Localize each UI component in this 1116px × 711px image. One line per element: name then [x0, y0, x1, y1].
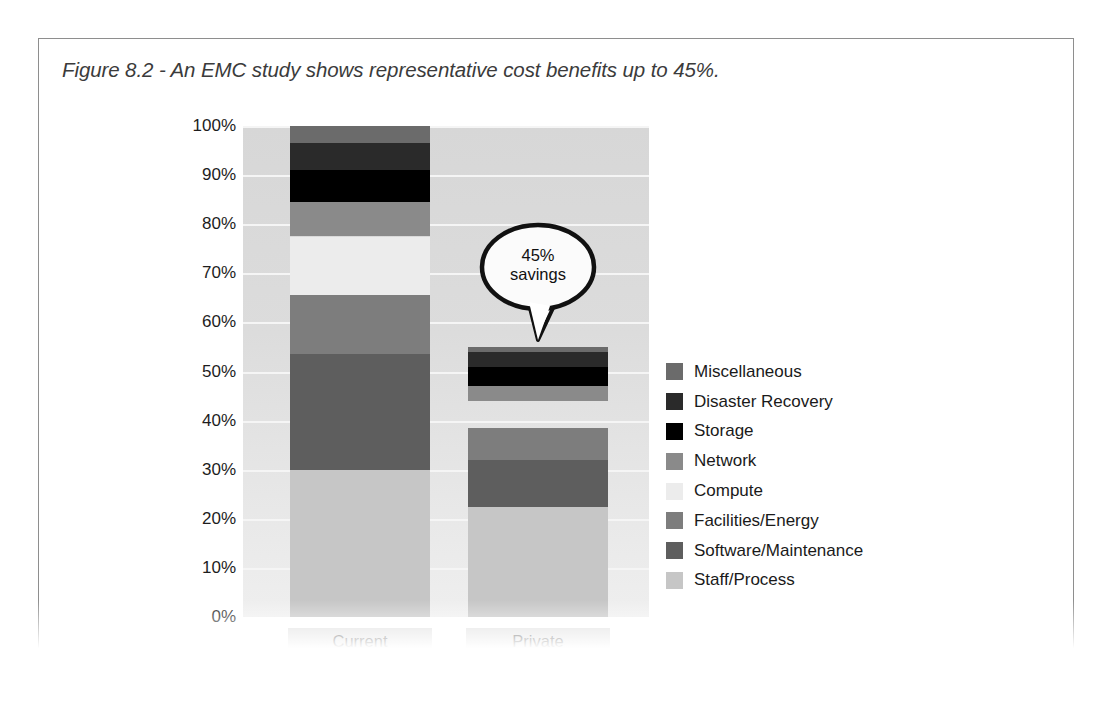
- y-tick-label: 90%: [166, 165, 236, 185]
- bar-segment[interactable]: [290, 143, 430, 170]
- x-label-private-text: Private: [512, 632, 563, 651]
- legend-label: Software/Maintenance: [694, 541, 863, 561]
- callout-bubble-icon: [476, 222, 616, 358]
- y-tick-label: 20%: [166, 509, 236, 529]
- callout-line-1: 45%: [476, 246, 600, 265]
- y-axis: 0%10%20%30%40%50%60%70%80%90%100%: [164, 126, 236, 617]
- legend-label: Facilities/Energy: [694, 511, 819, 531]
- legend-label: Network: [694, 451, 756, 471]
- callout-text: 45% savings: [476, 246, 600, 284]
- legend-item[interactable]: Staff/Process: [666, 566, 996, 596]
- y-tick-label: 70%: [166, 263, 236, 283]
- bar-segment[interactable]: [468, 460, 608, 507]
- legend-swatch-icon: [666, 512, 683, 529]
- figure-container: Figure 8.2 - An EMC study shows represen…: [0, 0, 1116, 711]
- legend-swatch-icon: [666, 542, 683, 559]
- y-tick-label: 10%: [166, 558, 236, 578]
- legend-swatch-icon: [666, 483, 683, 500]
- legend-swatch-icon: [666, 572, 683, 589]
- legend-swatch-icon: [666, 423, 683, 440]
- bar-segment[interactable]: [468, 428, 608, 460]
- legend-item[interactable]: Software/Maintenance: [666, 536, 996, 566]
- legend-label: Staff/Process: [694, 570, 795, 590]
- bar-segment[interactable]: [468, 507, 608, 617]
- legend-swatch-icon: [666, 453, 683, 470]
- callout-line-2: savings: [476, 265, 600, 284]
- legend-item[interactable]: Storage: [666, 417, 996, 447]
- legend-label: Miscellaneous: [694, 362, 802, 382]
- legend-swatch-icon: [666, 393, 683, 410]
- legend-swatch-icon: [666, 363, 683, 380]
- plot-area: [243, 126, 649, 617]
- legend-label: Compute: [694, 481, 763, 501]
- x-label-private: Private: [466, 628, 610, 654]
- bar-segment[interactable]: [290, 295, 430, 354]
- legend-label: Disaster Recovery: [694, 392, 833, 412]
- y-tick-label: 50%: [166, 362, 236, 382]
- bar-segment[interactable]: [468, 367, 608, 387]
- y-tick-label: 60%: [166, 312, 236, 332]
- y-tick-label: 0%: [166, 607, 236, 627]
- legend-item[interactable]: Miscellaneous: [666, 357, 996, 387]
- x-label-current: Current: [288, 628, 432, 654]
- legend-item[interactable]: Disaster Recovery: [666, 387, 996, 417]
- legend-label: Storage: [694, 421, 754, 441]
- bar-segment[interactable]: [290, 470, 430, 617]
- bar-segment[interactable]: [468, 386, 608, 401]
- bar-segment[interactable]: [290, 354, 430, 469]
- legend-item[interactable]: Compute: [666, 476, 996, 506]
- bar-segment[interactable]: [290, 170, 430, 202]
- y-tick-label: 80%: [166, 214, 236, 234]
- bar-segment[interactable]: [290, 202, 430, 236]
- legend: MiscellaneousDisaster RecoveryStorageNet…: [666, 357, 996, 595]
- bar-segment[interactable]: [290, 237, 430, 296]
- y-tick-label: 30%: [166, 460, 236, 480]
- y-tick-label: 100%: [166, 116, 236, 136]
- figure-caption: Figure 8.2 - An EMC study shows represen…: [62, 58, 1022, 82]
- legend-item[interactable]: Facilities/Energy: [666, 506, 996, 536]
- x-label-current-text: Current: [332, 632, 387, 651]
- y-tick-label: 40%: [166, 411, 236, 431]
- savings-callout: 45% savings: [476, 222, 616, 358]
- legend-item[interactable]: Network: [666, 446, 996, 476]
- bar-segment[interactable]: [290, 126, 430, 143]
